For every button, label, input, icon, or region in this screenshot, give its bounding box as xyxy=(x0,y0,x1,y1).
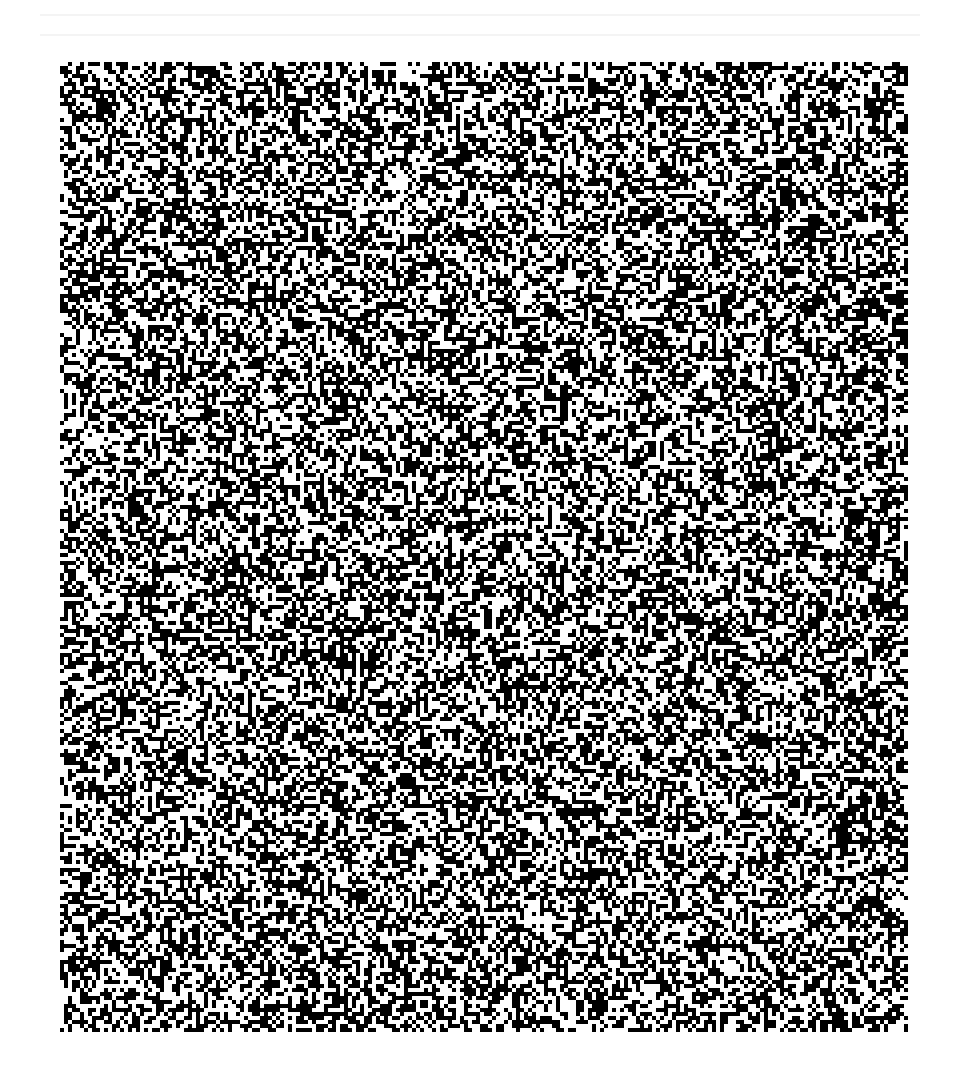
faint-artifact-line xyxy=(40,14,920,16)
random-dot-noise-image xyxy=(60,62,908,1032)
faint-artifact-line xyxy=(40,34,920,36)
